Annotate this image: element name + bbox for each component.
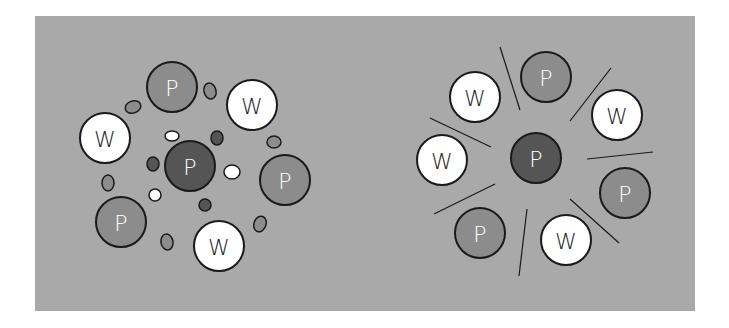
protein-center-label: P bbox=[529, 147, 542, 172]
protein-label: P bbox=[618, 182, 631, 207]
left-ring-item-3: W bbox=[194, 221, 244, 271]
left-ring-item-4: P bbox=[96, 197, 146, 247]
water-label: W bbox=[208, 235, 230, 260]
water-label: W bbox=[464, 86, 486, 111]
water-label: W bbox=[431, 149, 453, 174]
left-ring-item-2: P bbox=[260, 155, 310, 205]
protein-label: P bbox=[165, 76, 178, 101]
water-label: W bbox=[241, 94, 263, 119]
right-ring-item-0: P bbox=[521, 52, 571, 102]
water-label: W bbox=[94, 127, 116, 152]
water-label: W bbox=[606, 104, 628, 129]
right-ring-item-6: W bbox=[450, 72, 500, 122]
protein-label: P bbox=[114, 211, 127, 236]
protein-label: P bbox=[539, 66, 552, 91]
diagram-canvas: P W P W P W P bbox=[0, 0, 729, 328]
left-ring-item-1: W bbox=[227, 80, 277, 130]
right-ring-item-3: W bbox=[541, 215, 591, 265]
right-ring-item-5: W bbox=[417, 135, 467, 185]
right-center-protein: P bbox=[511, 133, 561, 183]
right-ring-item-2: P bbox=[600, 168, 650, 218]
right-ring-item-1: W bbox=[592, 90, 642, 140]
left-center-protein: P bbox=[165, 141, 215, 191]
left-diagram: P W P W P W P bbox=[80, 62, 310, 271]
protein-label: P bbox=[473, 222, 486, 247]
right-diagram: P W P W P W W P bbox=[417, 47, 653, 276]
left-ring-item-5: W bbox=[80, 113, 130, 163]
protein-center-label: P bbox=[183, 155, 196, 180]
protein-label: P bbox=[278, 169, 291, 194]
left-ring-item-0: P bbox=[147, 62, 197, 112]
right-ring-item-4: P bbox=[455, 208, 505, 258]
water-label: W bbox=[555, 229, 577, 254]
